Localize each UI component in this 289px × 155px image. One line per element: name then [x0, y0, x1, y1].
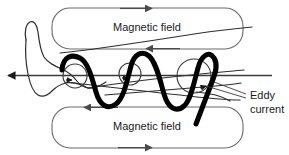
top-magnetic-field-label: Magnetic field — [113, 21, 181, 33]
eddy-current-label-line1: Eddy — [250, 89, 276, 101]
eddy-current-coil — [62, 53, 216, 124]
coil-winding-path — [62, 53, 216, 124]
bottom-magnetic-field-loop: Magnetic field — [52, 107, 243, 148]
top-magnetic-field-loop: Magnetic field — [52, 8, 243, 49]
bottom-magnetic-field-label: Magnetic field — [113, 120, 181, 132]
eddy-current-label-line2: current — [250, 103, 284, 115]
eddy-current-leader-line-upper — [214, 82, 246, 94]
eddy-current-diagram: Magnetic field Magnetic field — [0, 0, 289, 155]
